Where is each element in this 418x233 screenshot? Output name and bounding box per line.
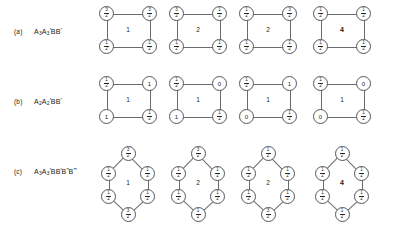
node-bottom-left: 1 (99, 109, 114, 124)
node-bottom-left: 12 (239, 39, 254, 54)
node-value: 12 (318, 78, 323, 89)
node-value: 12 (359, 168, 364, 179)
node-value: 12 (176, 168, 181, 179)
node-bottom-left: 0 (239, 109, 254, 124)
row-tag: (b) (14, 98, 34, 105)
node-upper-left: 12 (315, 166, 330, 181)
node-top-right: 32 (142, 6, 157, 21)
node-top-right: 0 (212, 76, 227, 91)
node-value: 12 (145, 191, 150, 202)
node-bottom-right: 12 (356, 109, 371, 124)
node-value: 12 (147, 111, 152, 122)
node-value: 12 (196, 209, 201, 220)
node-value: 12 (320, 191, 325, 202)
center-label: 1 (120, 179, 136, 186)
node-value: 32 (287, 8, 292, 19)
node-value: 12 (104, 41, 109, 52)
node-top-left: 32 (169, 6, 184, 21)
node-top-left: 12 (239, 6, 254, 21)
node-bottom-left: 12 (313, 39, 328, 54)
diagram-a-2: 321212122 (169, 6, 227, 54)
node-value: 32 (104, 8, 109, 19)
center-label: 2 (260, 179, 276, 186)
node-value: 12 (287, 111, 292, 122)
node-lower-right: 12 (140, 189, 155, 204)
figure-canvas: (a)A3A3'BB'32321212132121212212321212212… (0, 0, 418, 233)
node-value: 12 (215, 191, 220, 202)
node-value: 12 (106, 191, 111, 202)
node-value: 0 (319, 114, 322, 120)
node-lower-left: 12 (315, 189, 330, 204)
node-value: 12 (145, 168, 150, 179)
node-value: 12 (266, 148, 271, 159)
node-lower-left: 12 (241, 189, 256, 204)
node-value: 12 (106, 168, 111, 179)
node-value: 32 (126, 209, 131, 220)
node-bottom-right: 12 (142, 39, 157, 54)
node-value: 12 (104, 78, 109, 89)
node-lower-right: 12 (210, 189, 225, 204)
node-top-right: 1 (282, 76, 297, 91)
node-bottom-right: 12 (142, 109, 157, 124)
node-value: 12 (147, 41, 152, 52)
node-lower-right: 12 (280, 189, 295, 204)
row-tag: (c) (14, 168, 34, 175)
node-upper-left: 12 (101, 166, 116, 181)
node-value: 12 (244, 41, 249, 52)
node-value: 1 (288, 81, 291, 87)
node-value: 12 (318, 8, 323, 19)
node-value: 1 (175, 114, 178, 120)
diagram-a-3: 123212122 (239, 6, 297, 54)
node-value: 12 (285, 191, 290, 202)
node-top: 12 (335, 146, 350, 161)
row-formula: A3A3'BB'B''B''' (34, 167, 77, 176)
diagram-c-4: 1212121212124 (313, 146, 371, 222)
center-label: 4 (334, 26, 350, 33)
node-bottom-left: 12 (99, 39, 114, 54)
center-label: 2 (260, 26, 276, 33)
node-value: 12 (246, 168, 251, 179)
node-value: 12 (340, 209, 345, 220)
diagram-b-2: 1201121 (169, 76, 227, 124)
node-top-left: 12 (169, 76, 184, 91)
node-value: 12 (244, 8, 249, 19)
node-bottom-left: 12 (169, 39, 184, 54)
node-top-left: 12 (313, 6, 328, 21)
row-label-a: (a)A3A3'BB' (14, 27, 62, 36)
diagram-b-1: 1211121 (99, 76, 157, 124)
node-upper-left: 12 (241, 166, 256, 181)
node-top-left: 12 (313, 76, 328, 91)
node-bottom-left: 0 (313, 109, 328, 124)
diagram-b-4: 1200121 (313, 76, 371, 124)
node-value: 32 (174, 8, 179, 19)
diagram-c-2: 3212121212122 (169, 146, 227, 222)
node-top-right: 32 (282, 6, 297, 21)
node-bottom-left: 1 (169, 109, 184, 124)
center-label: 1 (260, 96, 276, 103)
node-top-right: 12 (212, 6, 227, 21)
node-bottom: 12 (335, 207, 350, 222)
diagram-c-3: 1212121212322 (239, 146, 297, 222)
node-value: 12 (285, 168, 290, 179)
node-top-left: 32 (99, 6, 114, 21)
node-value: 1 (148, 81, 151, 87)
node-upper-left: 12 (171, 166, 186, 181)
node-value: 12 (361, 111, 366, 122)
node-lower-right: 12 (354, 189, 369, 204)
node-value: 12 (320, 168, 325, 179)
node-value: 12 (174, 41, 179, 52)
node-value: 12 (318, 41, 323, 52)
node-bottom-right: 12 (282, 109, 297, 124)
node-upper-right: 12 (140, 166, 155, 181)
node-top-left: 12 (239, 76, 254, 91)
node-bottom-right: 12 (356, 39, 371, 54)
node-bottom-right: 12 (282, 39, 297, 54)
node-lower-left: 12 (101, 189, 116, 204)
node-value: 12 (217, 41, 222, 52)
node-upper-right: 12 (354, 166, 369, 181)
center-label: 1 (334, 96, 350, 103)
node-bottom: 32 (261, 207, 276, 222)
center-label: 2 (190, 26, 206, 33)
row-tag: (a) (14, 28, 34, 35)
node-top: 12 (261, 146, 276, 161)
